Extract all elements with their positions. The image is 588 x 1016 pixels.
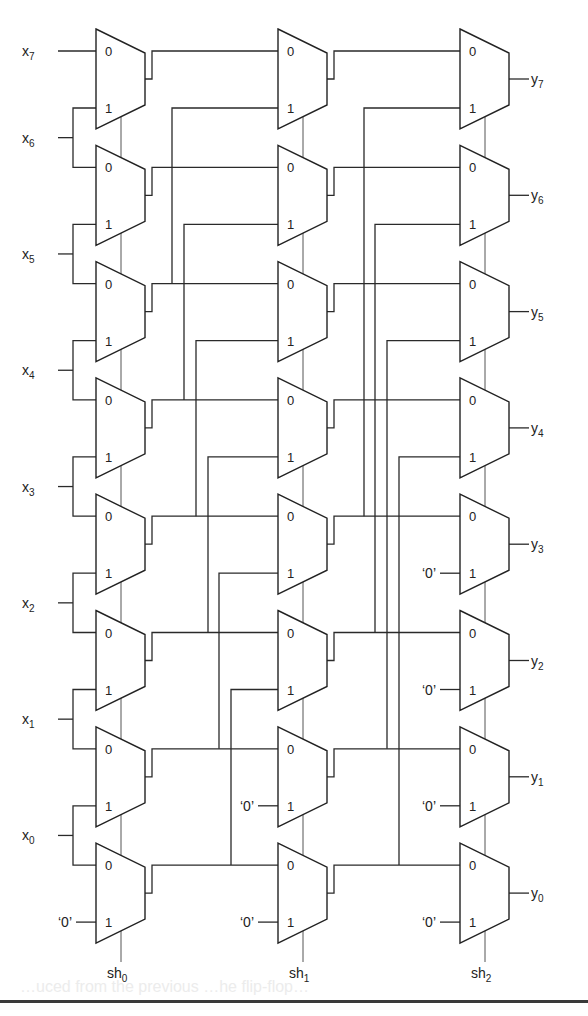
stage0-out-bit7: [145, 51, 278, 79]
input-wire-x2: [73, 573, 96, 632]
mux-pin-1-label: 1: [105, 915, 112, 930]
mux-pin-1-label: 1: [105, 799, 112, 814]
mux-pin-1-label: 1: [469, 334, 476, 349]
mux-stage1-bit7: [278, 29, 327, 129]
input-wire-x0: [73, 806, 96, 865]
mux-stage0-bit2: [96, 611, 145, 711]
mux-pin-1-label: 1: [287, 915, 294, 930]
mux-pin-1-label: 1: [105, 101, 112, 116]
zero-constant-label: ‘0’: [422, 798, 436, 814]
mux-stage0-bit4: [96, 378, 145, 478]
zero-constant-label: ‘0’: [58, 914, 72, 930]
mux-pin-0-label: 0: [287, 509, 294, 524]
stage1-out-bit2: [327, 633, 460, 661]
mux-stage1-bit2: [278, 611, 327, 711]
mux-pin-0-label: 0: [469, 626, 476, 641]
zero-constant-label: ‘0’: [422, 565, 436, 581]
mux-pin-1-label: 1: [469, 217, 476, 232]
mux-pin-0-label: 0: [287, 160, 294, 175]
mux-pin-1-label: 1: [105, 683, 112, 698]
mux-stage1-bit1: [278, 727, 327, 827]
mux-pin-0-label: 0: [469, 393, 476, 408]
stage1-out-bit0: [327, 865, 460, 893]
mux-pin-1-label: 1: [469, 450, 476, 465]
stage1-out-bit1: [327, 749, 460, 777]
mux-stage2-bit0: [460, 843, 509, 943]
stage0-out-bit0: [145, 865, 278, 893]
input-label-x5: x5: [22, 246, 35, 265]
mux-pin-0-label: 0: [287, 44, 294, 59]
mux-stage1-bit6: [278, 145, 327, 245]
mux-stage2-bit2: [460, 611, 509, 711]
mux-pin-0-label: 0: [287, 858, 294, 873]
output-label-y7: y7: [531, 71, 544, 90]
mux-pin-0-label: 0: [105, 277, 112, 292]
mux-pin-1-label: 1: [469, 683, 476, 698]
mux-pin-0-label: 0: [469, 742, 476, 757]
input-label-x0: x0: [22, 827, 35, 846]
mux-pin-0-label: 0: [469, 509, 476, 524]
input-label-x3: x3: [22, 479, 35, 498]
zero-constant-label: ‘0’: [422, 682, 436, 698]
mux-pin-1-label: 1: [287, 799, 294, 814]
stage0-out-bit3: [145, 516, 278, 544]
mux-stage2-bit5: [460, 262, 509, 362]
mux-stage0-bit0: [96, 843, 145, 943]
input-label-x2: x2: [22, 595, 35, 614]
stage1-out-bit4: [327, 400, 460, 428]
mux-pin-0-label: 0: [469, 858, 476, 873]
mux-stage1-bit4: [278, 378, 327, 478]
mux-pin-1-label: 1: [469, 566, 476, 581]
stage1-out-bit5: [327, 284, 460, 312]
output-label-y0: y0: [531, 885, 544, 904]
stage0-out-bit2: [145, 633, 278, 661]
zero-constant-label: ‘0’: [422, 914, 436, 930]
stage2-shift-tap-bit3: [364, 108, 460, 516]
stage1-shift-tap-bit4: [184, 224, 278, 400]
mux-pin-0-label: 0: [287, 742, 294, 757]
mux-pin-0-label: 0: [469, 277, 476, 292]
mux-pin-0-label: 0: [105, 858, 112, 873]
mux-pin-0-label: 0: [287, 393, 294, 408]
mux-pin-0-label: 0: [469, 160, 476, 175]
mux-pin-1-label: 1: [105, 334, 112, 349]
stage1-shift-tap-bit0: [231, 690, 278, 866]
mux-pin-1-label: 1: [287, 217, 294, 232]
stage2-shift-tap-bit2: [375, 224, 460, 632]
output-label-y6: y6: [531, 187, 544, 206]
mux-pin-0-label: 0: [105, 393, 112, 408]
mux-stage0-bit5: [96, 262, 145, 362]
stage1-shift-tap-bit1: [219, 573, 278, 749]
mux-pin-1-label: 1: [287, 334, 294, 349]
input-wire-x6: [73, 108, 96, 167]
input-label-x7: x7: [22, 43, 35, 62]
mux-pin-1-label: 1: [105, 450, 112, 465]
mux-pin-1-label: 1: [287, 101, 294, 116]
stage0-out-bit5: [145, 284, 278, 312]
output-label-y4: y4: [531, 420, 544, 439]
mux-pin-1-label: 1: [105, 566, 112, 581]
mux-pin-0-label: 0: [105, 742, 112, 757]
mux-stage0-bit3: [96, 494, 145, 594]
mux-stage2-bit6: [460, 145, 509, 245]
stage1-out-bit3: [327, 516, 460, 544]
input-wire-x4: [73, 341, 96, 400]
output-label-y3: y3: [531, 536, 544, 555]
stage1-out-bit7: [327, 51, 460, 79]
stage1-out-bit6: [327, 167, 460, 195]
input-wire-x3: [73, 457, 96, 516]
mux-stage1-bit3: [278, 494, 327, 594]
mux-stage2-bit4: [460, 378, 509, 478]
mux-stage0-bit7: [96, 29, 145, 129]
mux-stage2-bit7: [460, 29, 509, 129]
mux-pin-0-label: 0: [287, 277, 294, 292]
stage0-out-bit1: [145, 749, 278, 777]
mux-pin-1-label: 1: [287, 683, 294, 698]
mux-pin-1-label: 1: [469, 799, 476, 814]
mux-stage0-bit1: [96, 727, 145, 827]
mux-pin-1-label: 1: [287, 450, 294, 465]
mux-pin-1-label: 1: [469, 101, 476, 116]
stage1-shift-tap-bit5: [172, 108, 278, 284]
mux-pin-1-label: 1: [287, 566, 294, 581]
mux-stage2-bit1: [460, 727, 509, 827]
